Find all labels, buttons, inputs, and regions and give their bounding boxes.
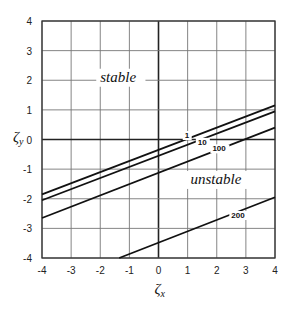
y-axis-label: ζy (13, 129, 24, 147)
y-tick-label: 1 (26, 105, 32, 116)
x-tick-label: 2 (214, 265, 220, 276)
stability-chart: -4-3-2-10123443210-1-2-3-4ζxζy110100200s… (0, 0, 292, 313)
curve-200 (119, 197, 275, 258)
x-tick-label: 3 (243, 265, 249, 276)
y-tick-label: 4 (26, 16, 32, 27)
curve-label-100: 100 (212, 144, 226, 153)
x-tick-label: 4 (272, 265, 278, 276)
region-label-unstable: unstable (191, 171, 242, 187)
region-label-stable: stable (100, 69, 136, 85)
x-tick-label: -4 (38, 265, 47, 276)
curve-label-1: 1 (185, 131, 190, 140)
x-tick-label: 1 (185, 265, 191, 276)
y-tick-label: 2 (26, 75, 32, 86)
x-tick-label: 0 (156, 265, 162, 276)
y-tick-label: -4 (23, 253, 32, 264)
y-tick-label: -1 (23, 164, 32, 175)
curve-label-200: 200 (231, 211, 245, 220)
x-axis-label: ζx (155, 281, 166, 299)
y-tick-label: -3 (23, 223, 32, 234)
y-tick-label: 0 (26, 135, 32, 146)
x-tick-label: -1 (125, 265, 134, 276)
y-tick-label: 3 (26, 46, 32, 57)
y-tick-label: -2 (23, 194, 32, 205)
x-tick-label: -3 (67, 265, 76, 276)
x-tick-label: -2 (96, 265, 105, 276)
curve-label-10: 10 (198, 138, 207, 147)
